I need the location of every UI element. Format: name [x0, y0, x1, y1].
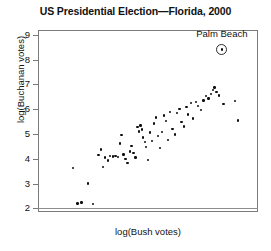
data-point [147, 159, 149, 161]
baseline-rule [38, 208, 258, 209]
data-point [212, 89, 214, 91]
data-point [237, 119, 239, 121]
data-point [126, 162, 128, 164]
data-point [183, 125, 185, 127]
chart-title: US Presidential Election—Florida, 2000 [0, 5, 271, 17]
data-point [76, 202, 78, 204]
data-point [120, 134, 122, 136]
y-tick-label: 3 [8, 179, 30, 189]
y-axis-label: log(Buchanan votes) [15, 0, 26, 160]
data-point [139, 124, 141, 126]
data-point [215, 91, 217, 93]
data-point [210, 93, 212, 95]
y-tick-mark [33, 134, 38, 135]
data-point [157, 135, 159, 137]
data-point [174, 133, 176, 135]
data-point [138, 130, 140, 132]
data-point [149, 131, 151, 133]
data-point [80, 201, 82, 203]
data-point [192, 117, 194, 119]
data-point [92, 203, 94, 205]
data-point [97, 154, 99, 156]
plot-area [38, 30, 258, 212]
data-point [187, 113, 189, 115]
data-point [117, 156, 119, 158]
data-point [87, 182, 89, 184]
data-point [197, 105, 199, 107]
data-point [145, 146, 147, 148]
data-point [169, 111, 171, 113]
data-point [218, 94, 220, 96]
y-tick-mark [33, 109, 38, 110]
data-point [102, 166, 104, 168]
data-point [178, 108, 180, 110]
scatter-plot-figure: US Presidential Election—Florida, 2000 2… [0, 0, 271, 251]
data-point [200, 109, 202, 111]
data-point [165, 120, 167, 122]
data-point [163, 114, 165, 116]
data-point [141, 128, 143, 130]
y-tick-mark [33, 35, 38, 36]
y-tick-mark [33, 184, 38, 185]
palm-beach-marker [216, 44, 227, 55]
data-point [144, 141, 146, 143]
data-point [132, 152, 134, 154]
data-point [153, 122, 155, 124]
data-point [202, 99, 204, 101]
data-point [195, 101, 197, 103]
data-point [122, 153, 124, 155]
data-point [171, 128, 173, 130]
data-point [142, 136, 144, 138]
data-point [213, 86, 215, 88]
data-point [176, 112, 178, 114]
y-tick-mark [33, 208, 38, 209]
palm-beach-annotation-label: Palm Beach [196, 28, 247, 39]
data-point [222, 103, 224, 105]
data-point [167, 139, 169, 141]
data-point [207, 97, 209, 99]
data-point [119, 142, 121, 144]
data-point [107, 159, 109, 161]
data-point [234, 100, 236, 102]
data-point [129, 150, 131, 152]
data-point [130, 145, 132, 147]
data-point [159, 147, 161, 149]
data-point [180, 121, 182, 123]
y-tick-mark [33, 159, 38, 160]
data-point [124, 158, 126, 160]
data-point [104, 156, 106, 158]
y-tick-mark [33, 60, 38, 61]
data-point [185, 106, 187, 108]
data-point [72, 167, 74, 169]
y-tick-mark [33, 84, 38, 85]
data-point [151, 140, 153, 142]
x-axis-label: log(Bush votes) [38, 226, 258, 237]
data-point [190, 102, 192, 104]
y-tick-label: 2 [8, 203, 30, 213]
data-point [161, 131, 163, 133]
data-point [134, 156, 136, 158]
data-point [100, 148, 102, 150]
data-point [155, 116, 157, 118]
